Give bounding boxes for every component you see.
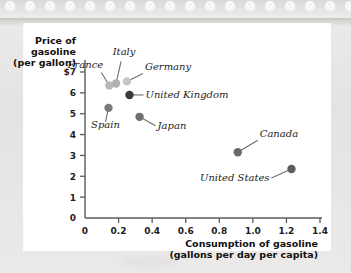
figure-card xyxy=(24,24,330,250)
scan-smudge xyxy=(120,258,180,266)
